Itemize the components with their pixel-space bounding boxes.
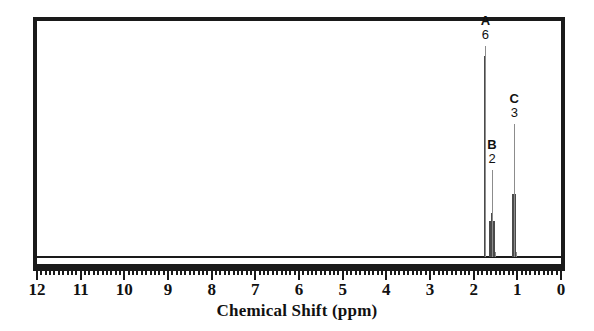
axis-tick-minor xyxy=(315,270,317,275)
axis-tick-minor xyxy=(237,270,239,275)
axis-tick-minor xyxy=(490,270,492,275)
axis-tick-minor xyxy=(259,270,261,275)
axis-tick-minor xyxy=(324,270,326,275)
axis-tick-minor xyxy=(132,270,134,275)
axis-tick-minor xyxy=(163,270,165,275)
axis-tick-minor xyxy=(62,270,64,275)
axis-tick-minor xyxy=(171,270,173,275)
axis-tick-major xyxy=(385,270,387,280)
axis-tick-minor xyxy=(495,270,497,275)
axis-tick-minor xyxy=(202,270,204,275)
plot-area xyxy=(37,21,561,264)
axis-tick-minor xyxy=(119,270,121,275)
axis-tick-minor xyxy=(329,270,331,275)
axis-tick-minor xyxy=(403,270,405,275)
axis-tick-minor xyxy=(241,270,243,275)
axis-tick-label: 6 xyxy=(287,280,311,300)
axis-tick-major xyxy=(36,270,38,280)
axis-tick-minor xyxy=(285,270,287,275)
axis-tick-minor xyxy=(71,270,73,275)
axis-tick-minor xyxy=(543,270,545,275)
spectrum-baseline xyxy=(37,256,561,258)
axis-tick-label: 7 xyxy=(243,280,267,300)
axis-tick-major xyxy=(429,270,431,280)
axis-tick-minor xyxy=(407,270,409,275)
axis-tick-minor xyxy=(150,270,152,275)
axis-tick-minor xyxy=(250,270,252,275)
axis-tick-minor xyxy=(294,270,296,275)
axis-tick-label: 8 xyxy=(200,280,224,300)
axis-tick-major xyxy=(342,270,344,280)
nmr-spectrum-figure: A6B2C3 1211109876543210 Chemical Shift (… xyxy=(0,0,594,331)
axis-tick-major xyxy=(298,270,300,280)
axis-tick-minor xyxy=(97,270,99,275)
axis-tick-minor xyxy=(53,270,55,275)
axis-tick-minor xyxy=(355,270,357,275)
axis-tick-minor xyxy=(276,270,278,275)
axis-tick-major xyxy=(473,270,475,280)
axis-tick-minor xyxy=(451,270,453,275)
axis-tick-major xyxy=(80,270,82,280)
axis-tick-label: 10 xyxy=(112,280,136,300)
axis-tick-minor xyxy=(58,270,60,275)
axis-tick-minor xyxy=(481,270,483,275)
axis-tick-minor xyxy=(189,270,191,275)
axis-tick-minor xyxy=(141,270,143,275)
axis-tick-major xyxy=(254,270,256,280)
axis-tick-minor xyxy=(486,270,488,275)
axis-tick-minor xyxy=(538,270,540,275)
axis-tick-minor xyxy=(512,270,514,275)
axis-tick-minor xyxy=(521,270,523,275)
axis-tick-minor xyxy=(302,270,304,275)
axis-tick-minor xyxy=(263,270,265,275)
x-axis-ruler xyxy=(33,268,565,280)
peak-leader-a xyxy=(485,46,486,257)
axis-tick-minor xyxy=(460,270,462,275)
axis-tick-major xyxy=(123,270,125,280)
axis-tick-minor xyxy=(224,270,226,275)
axis-tick-minor xyxy=(503,270,505,275)
axis-tick-minor xyxy=(154,270,156,275)
axis-tick-minor xyxy=(390,270,392,275)
axis-tick-minor xyxy=(145,270,147,275)
axis-tick-minor xyxy=(206,270,208,275)
axis-tick-minor xyxy=(464,270,466,275)
axis-tick-label: 12 xyxy=(25,280,49,300)
axis-tick-minor xyxy=(359,270,361,275)
axis-tick-minor xyxy=(246,270,248,275)
axis-tick-minor xyxy=(219,270,221,275)
axis-tick-label: 3 xyxy=(418,280,442,300)
axis-tick-minor xyxy=(551,270,553,275)
axis-tick-minor xyxy=(215,270,217,275)
axis-tick-minor xyxy=(115,270,117,275)
axis-tick-minor xyxy=(281,270,283,275)
axis-tick-minor xyxy=(75,270,77,275)
axis-tick-minor xyxy=(499,270,501,275)
axis-tick-minor xyxy=(368,270,370,275)
axis-tick-minor xyxy=(412,270,414,275)
axis-tick-minor xyxy=(49,270,51,275)
axis-tick-minor xyxy=(508,270,510,275)
axis-tick-minor xyxy=(40,270,42,275)
axis-tick-minor xyxy=(106,270,108,275)
x-axis-title: Chemical Shift (ppm) xyxy=(0,301,594,321)
axis-tick-minor xyxy=(529,270,531,275)
axis-tick-minor xyxy=(228,270,230,275)
axis-tick-minor xyxy=(455,270,457,275)
axis-tick-minor xyxy=(198,270,200,275)
axis-tick-minor xyxy=(311,270,313,275)
axis-tick-minor xyxy=(337,270,339,275)
axis-tick-minor xyxy=(438,270,440,275)
axis-tick-minor xyxy=(394,270,396,275)
axis-tick-label: 1 xyxy=(505,280,529,300)
axis-tick-minor xyxy=(446,270,448,275)
axis-tick-minor xyxy=(88,270,90,275)
axis-tick-minor xyxy=(425,270,427,275)
axis-tick-minor xyxy=(350,270,352,275)
axis-tick-minor xyxy=(433,270,435,275)
axis-tick-label: 9 xyxy=(156,280,180,300)
axis-tick-minor xyxy=(468,270,470,275)
axis-tick-minor xyxy=(320,270,322,275)
axis-tick-minor xyxy=(416,270,418,275)
axis-tick-minor xyxy=(110,270,112,275)
